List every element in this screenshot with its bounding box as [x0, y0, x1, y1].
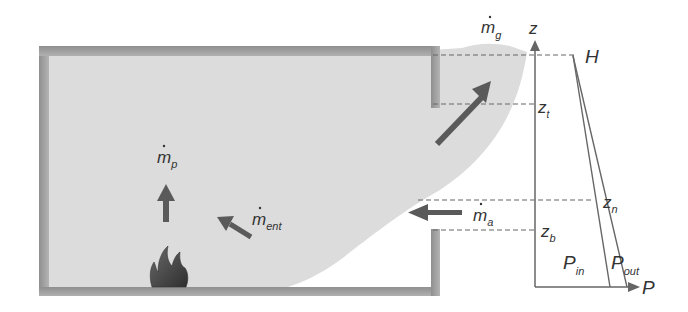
svg-text:ma: ma	[473, 206, 493, 228]
smoke-layer	[49, 44, 527, 287]
arrow-m-a-shaft	[428, 210, 462, 215]
p-axis-label: P	[642, 277, 655, 298]
label-m-g: mg	[481, 16, 502, 41]
p-in-line	[573, 55, 610, 287]
compartment-fire-diagram: mg mp ment ma z P H zt zn zb Pin Pout	[0, 0, 688, 312]
p-axis-arrowhead	[628, 282, 640, 292]
svg-text:mg: mg	[481, 18, 502, 41]
wall-left	[39, 46, 49, 296]
label-z-t: zt	[537, 98, 551, 120]
label-m-a: ma	[473, 203, 493, 228]
z-axis-label: z	[528, 19, 538, 38]
wall-right-lower	[431, 229, 440, 296]
label-z-n: zn	[602, 193, 618, 215]
z-axis-arrowhead	[530, 40, 540, 51]
pressure-profiles	[572, 55, 610, 287]
arrow-m-p-shaft	[163, 200, 169, 222]
label-p-out: Pout	[611, 252, 640, 277]
label-z-b: zb	[540, 222, 556, 244]
label-p-in: Pin	[563, 252, 584, 277]
wall-top	[39, 46, 440, 56]
wall-bottom	[39, 287, 440, 296]
label-H: H	[585, 46, 599, 67]
